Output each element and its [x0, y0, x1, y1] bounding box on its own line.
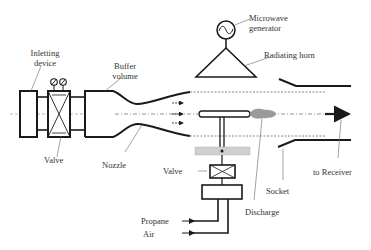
microwave-generator-icon — [217, 21, 235, 48]
pressure-gauge-icon — [51, 79, 67, 91]
label-buffer-line2: volume — [108, 71, 142, 81]
connector-1 — [37, 97, 48, 130]
label-inletting-device: Inletting device — [27, 48, 63, 68]
burner-icon — [199, 111, 250, 153]
inletting-device-box — [20, 91, 37, 137]
radiating-horn-icon — [196, 48, 256, 77]
air-line — [193, 199, 228, 233]
label-air: Air — [143, 229, 154, 239]
mixer-box — [202, 185, 242, 199]
label-inletting-line2: device — [27, 58, 63, 68]
label-buffer-line1: Buffer — [108, 61, 142, 71]
label-inletting-line1: Inletting — [27, 48, 63, 58]
label-to-receiver: to Receiver — [313, 167, 352, 177]
leader-lines — [31, 19, 341, 200]
label-propane: Propane — [141, 216, 169, 226]
label-valve-inlet: Valve — [44, 155, 63, 165]
fuel-valve-icon — [210, 165, 235, 178]
inlet-valve-icon — [48, 91, 70, 137]
socket-bottom — [278, 140, 351, 147]
flow-arrows-icon — [172, 103, 183, 123]
connector-2 — [70, 97, 85, 130]
discharge-plasma — [250, 109, 276, 118]
label-radiating-horn: Radiating horn — [264, 50, 315, 60]
label-socket: Socket — [266, 186, 289, 196]
label-nozzle: Nozzle — [102, 160, 126, 170]
label-buffer-volume: Buffer volume — [108, 61, 142, 81]
socket-top — [279, 79, 351, 86]
propane-line — [193, 199, 218, 221]
label-microwave-generator: Microwave generator — [249, 13, 288, 33]
diagram-drawing — [0, 0, 371, 250]
label-microwave-line1: Microwave — [249, 13, 288, 23]
label-microwave-line2: generator — [249, 23, 288, 33]
label-valve-fuel: Valve — [163, 166, 182, 176]
label-discharge: Discharge — [245, 207, 279, 217]
diagram-canvas: Inletting device Buffer volume Microwave… — [0, 0, 371, 250]
